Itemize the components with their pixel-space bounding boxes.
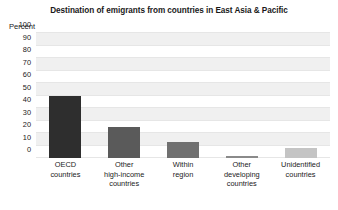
bars-group xyxy=(36,33,330,158)
x-axis-label-0: OECDcountries xyxy=(36,160,95,179)
y-axis-tick-labels: 1009080706050403020100 xyxy=(0,33,34,158)
y-axis-tick-10: 10 xyxy=(23,134,31,142)
bar-3 xyxy=(226,156,258,158)
x-axis-label-line: Within xyxy=(154,160,213,170)
bar-chart-figure: Destination of emigrants from countries … xyxy=(0,0,338,210)
x-axis-label-line: countries xyxy=(95,179,154,189)
y-axis-tick-100: 100 xyxy=(19,21,31,29)
bar-4 xyxy=(285,148,317,158)
x-axis-label-line: countries xyxy=(271,170,330,180)
x-axis-label-2: Withinregion xyxy=(154,160,213,179)
plot-area xyxy=(36,33,330,158)
x-axis-label-line: Other xyxy=(212,160,271,170)
x-axis-label-1: Otherhigh-incomecountries xyxy=(95,160,154,189)
y-axis-tick-30: 30 xyxy=(23,109,31,117)
x-axis-label-line: Other xyxy=(95,160,154,170)
y-axis-tick-50: 50 xyxy=(23,84,31,92)
bar-1 xyxy=(108,127,140,158)
bar-0 xyxy=(49,96,81,159)
y-axis-tick-90: 90 xyxy=(23,34,31,42)
y-axis-tick-40: 40 xyxy=(23,96,31,104)
x-axis-label-line: countries xyxy=(36,170,95,180)
x-axis-label-line: OECD xyxy=(36,160,95,170)
x-axis-category-labels: OECDcountriesOtherhigh-incomecountriesWi… xyxy=(36,160,330,208)
y-axis-tick-20: 20 xyxy=(23,121,31,129)
bar-2 xyxy=(167,142,199,158)
x-axis-label-3: Otherdevelopingcountries xyxy=(212,160,271,189)
x-axis-label-line: region xyxy=(154,170,213,180)
y-axis-tick-60: 60 xyxy=(23,71,31,79)
x-axis-label-line: countries xyxy=(212,179,271,189)
x-axis-label-4: Unidentifiedcountries xyxy=(271,160,330,179)
x-axis-label-line: developing xyxy=(212,170,271,180)
x-axis-label-line: high-income xyxy=(95,170,154,180)
y-axis-tick-0: 0 xyxy=(27,146,31,154)
y-axis-tick-80: 80 xyxy=(23,46,31,54)
chart-title: Destination of emigrants from countries … xyxy=(0,6,338,16)
y-axis-tick-70: 70 xyxy=(23,59,31,67)
x-axis-label-line: Unidentified xyxy=(271,160,330,170)
